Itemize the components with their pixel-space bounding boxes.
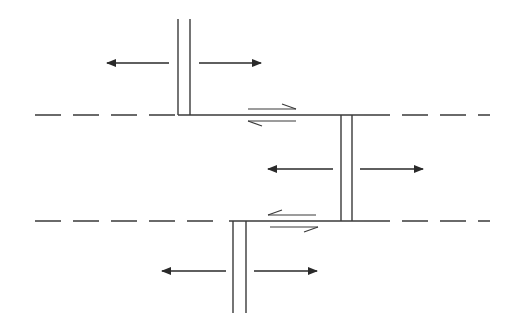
spreading-arrows: [107, 63, 423, 271]
lower-ridge: [233, 221, 246, 313]
half-arrow-left-icon: [268, 210, 316, 215]
transform-fault-diagram: [0, 0, 519, 336]
half-arrow-right-icon: [270, 227, 318, 232]
middle-ridge: [341, 115, 352, 221]
half-arrow-left-icon: [248, 121, 296, 126]
upper-ridge: [178, 19, 190, 115]
half-arrow-right-icon: [248, 104, 296, 109]
